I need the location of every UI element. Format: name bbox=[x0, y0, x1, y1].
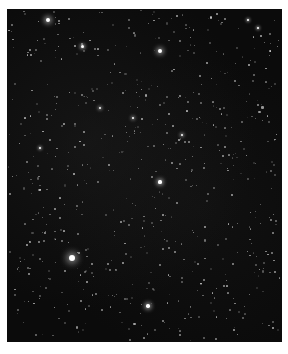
star bbox=[134, 130, 136, 132]
star bbox=[155, 38, 156, 39]
star bbox=[131, 297, 133, 299]
star bbox=[224, 127, 226, 129]
star bbox=[124, 243, 126, 245]
star bbox=[107, 263, 109, 265]
star bbox=[46, 224, 47, 225]
star bbox=[164, 322, 165, 323]
star bbox=[249, 239, 251, 241]
star bbox=[125, 90, 126, 91]
star bbox=[55, 23, 56, 24]
star bbox=[151, 176, 153, 178]
star bbox=[24, 13, 26, 15]
star bbox=[148, 23, 149, 24]
star bbox=[17, 309, 19, 311]
star bbox=[271, 188, 272, 189]
star bbox=[139, 96, 140, 97]
star bbox=[244, 313, 246, 315]
star bbox=[226, 318, 227, 319]
star bbox=[97, 181, 99, 183]
star bbox=[28, 301, 29, 302]
star bbox=[262, 291, 264, 293]
star bbox=[110, 72, 111, 73]
star bbox=[46, 189, 47, 190]
star bbox=[69, 255, 75, 261]
star bbox=[56, 148, 58, 150]
star bbox=[251, 116, 252, 117]
star bbox=[54, 208, 56, 210]
star bbox=[203, 167, 205, 169]
star bbox=[273, 164, 275, 166]
star bbox=[158, 18, 159, 19]
star bbox=[184, 318, 185, 319]
star bbox=[261, 104, 262, 105]
star bbox=[173, 69, 174, 70]
star bbox=[262, 270, 264, 272]
star bbox=[42, 131, 44, 133]
star bbox=[176, 202, 178, 204]
star bbox=[226, 285, 228, 287]
star bbox=[79, 141, 81, 143]
star bbox=[162, 214, 164, 216]
star bbox=[137, 107, 138, 108]
star bbox=[114, 296, 115, 297]
star bbox=[141, 159, 142, 160]
star bbox=[27, 52, 29, 54]
star bbox=[168, 148, 169, 149]
star bbox=[61, 58, 63, 60]
star bbox=[269, 33, 271, 35]
star bbox=[170, 148, 171, 149]
star bbox=[188, 141, 190, 143]
star bbox=[121, 322, 122, 323]
star bbox=[140, 10, 142, 12]
star bbox=[201, 84, 202, 85]
star bbox=[49, 278, 51, 280]
star bbox=[67, 165, 69, 167]
star bbox=[111, 260, 112, 261]
star bbox=[224, 146, 226, 148]
star bbox=[148, 88, 150, 90]
star bbox=[231, 127, 232, 128]
star bbox=[39, 147, 41, 149]
star bbox=[134, 133, 135, 134]
star bbox=[83, 289, 84, 290]
star bbox=[190, 307, 191, 308]
star bbox=[63, 123, 65, 125]
star bbox=[51, 115, 52, 116]
star bbox=[223, 107, 225, 109]
star bbox=[141, 81, 142, 82]
star bbox=[68, 242, 69, 243]
star bbox=[238, 311, 239, 312]
star bbox=[102, 157, 103, 158]
star bbox=[269, 272, 270, 273]
star bbox=[218, 20, 219, 21]
star bbox=[43, 240, 45, 242]
star bbox=[131, 218, 133, 220]
star bbox=[47, 153, 48, 154]
star bbox=[94, 48, 96, 50]
star bbox=[197, 236, 198, 237]
star bbox=[236, 157, 238, 159]
star bbox=[143, 216, 144, 217]
star bbox=[49, 214, 50, 215]
star bbox=[57, 34, 58, 35]
star bbox=[221, 113, 223, 115]
star bbox=[136, 92, 137, 93]
star bbox=[176, 168, 178, 170]
star bbox=[48, 270, 50, 272]
star bbox=[43, 207, 44, 208]
star bbox=[143, 220, 145, 222]
star bbox=[262, 120, 263, 121]
star bbox=[83, 131, 85, 133]
star bbox=[222, 155, 224, 157]
star bbox=[198, 316, 200, 318]
star bbox=[141, 304, 142, 305]
star bbox=[23, 187, 25, 189]
star bbox=[193, 92, 194, 93]
star bbox=[105, 268, 107, 270]
star bbox=[17, 268, 18, 269]
star bbox=[27, 54, 28, 55]
star bbox=[158, 37, 159, 38]
star bbox=[257, 100, 258, 101]
star bbox=[87, 97, 88, 98]
star bbox=[14, 294, 16, 296]
